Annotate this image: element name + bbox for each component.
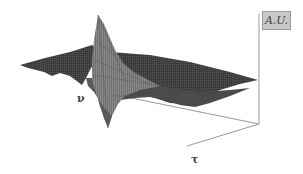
- z-axis-label: A.U.: [262, 11, 291, 30]
- surface-plot-figure: A.U. ν τ: [0, 0, 303, 174]
- tau-axis-line: [187, 124, 259, 146]
- surface-plot-svg: [0, 0, 303, 174]
- tau-axis-label: τ: [191, 153, 198, 166]
- nu-axis-label: ν: [77, 92, 85, 105]
